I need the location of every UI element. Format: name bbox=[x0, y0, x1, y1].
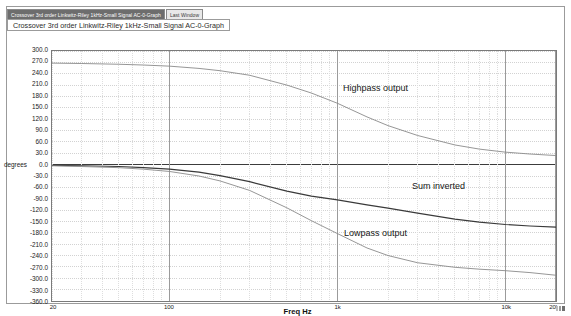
y-tick-label: 90.0 bbox=[36, 127, 48, 133]
tab-strip: Crossover 3rd order Linkwitz-Riley 1kHz-… bbox=[7, 8, 203, 19]
y-tick-label: 240.0 bbox=[32, 70, 48, 76]
curve-annotation: Highpass output bbox=[343, 84, 408, 93]
curve-annotation: Sum inverted bbox=[412, 182, 465, 191]
x-axis-title: Freq Hz bbox=[284, 308, 312, 316]
graph-window: Crossover 3rd order Linkwitz-Riley 1kHz-… bbox=[0, 0, 571, 316]
y-tick-label: -210.0 bbox=[30, 242, 48, 248]
y-tick-label: 150.0 bbox=[32, 104, 48, 110]
y-tick-label: -360.0 bbox=[30, 299, 48, 305]
y-tick-label: -330.0 bbox=[30, 287, 48, 293]
y-tick-label: 210.0 bbox=[32, 81, 48, 87]
series-sum-inverted bbox=[52, 165, 556, 227]
x-tick-label: 20 bbox=[50, 304, 57, 310]
y-tick-label: -120.0 bbox=[30, 207, 48, 213]
y-tick-label: 120.0 bbox=[32, 116, 48, 122]
curve-annotation: Lowpass output bbox=[344, 229, 407, 238]
tab-last-window[interactable]: Last Window bbox=[166, 9, 203, 19]
y-tick-label: -300.0 bbox=[30, 276, 48, 282]
graph-panel: Crossover 3rd order Linkwitz-Riley 1kHz-… bbox=[7, 19, 552, 295]
y-tick-label: -180.0 bbox=[30, 230, 48, 236]
y-tick-label: 300.0 bbox=[32, 47, 48, 53]
y-tick-label: -270.0 bbox=[30, 264, 48, 270]
y-tick-label: -150.0 bbox=[30, 219, 48, 225]
y-tick-label: -30.0 bbox=[33, 173, 48, 179]
x-tick-label: 100 bbox=[164, 304, 174, 310]
resize-grip-icon[interactable] bbox=[556, 306, 565, 311]
curve-layer bbox=[52, 51, 556, 301]
panel-title: Crossover 3rd order Linkwitz-Riley 1kHz-… bbox=[7, 19, 230, 31]
series-highpass-output bbox=[52, 63, 556, 155]
y-tick-label: 0.0 bbox=[39, 161, 48, 167]
series-lowpass-output bbox=[52, 166, 556, 275]
y-axis: 300.0270.0240.0210.0180.0150.0120.090.06… bbox=[7, 50, 51, 302]
y-tick-label: -60.0 bbox=[33, 184, 48, 190]
tab-graph[interactable]: Crossover 3rd order Linkwitz-Riley 1kHz-… bbox=[7, 9, 165, 19]
y-tick-label: 30.0 bbox=[36, 150, 48, 156]
y-tick-label: -90.0 bbox=[33, 196, 48, 202]
y-axis-unit-label: degrees bbox=[4, 161, 27, 167]
y-tick-label: 60.0 bbox=[36, 138, 48, 144]
plot-area[interactable] bbox=[51, 50, 557, 302]
y-tick-label: 270.0 bbox=[32, 58, 48, 64]
y-tick-label: -240.0 bbox=[30, 253, 48, 259]
x-axis: 201001k10k20kFreq Hz bbox=[51, 303, 557, 316]
x-tick-label: 10k bbox=[501, 304, 511, 310]
y-tick-label: 180.0 bbox=[32, 93, 48, 99]
x-tick-label: 1k bbox=[334, 304, 340, 310]
